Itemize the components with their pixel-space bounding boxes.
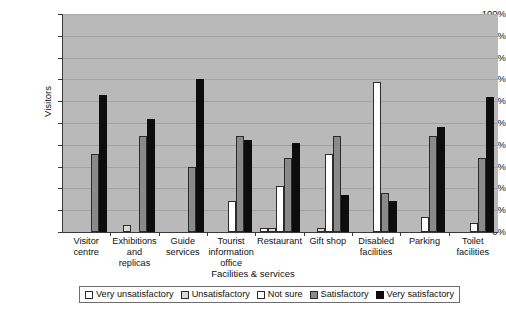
x-axis-tick-label-line: Tourist (207, 236, 255, 247)
bar-group (63, 14, 111, 232)
bar (91, 154, 99, 232)
bar-group (305, 14, 353, 232)
x-axis-tick-label-line: Exhibitions (110, 236, 158, 247)
bar (139, 136, 147, 232)
bar (325, 154, 333, 232)
y-axis-title: Visitors (42, 57, 53, 147)
bar (99, 95, 107, 232)
x-axis-tick-label-line: and (110, 247, 158, 258)
x-axis-tick-label-line: Guide (159, 236, 207, 247)
legend-swatch-icon (376, 291, 384, 299)
legend-label: Very satisfactory (387, 289, 454, 300)
bar (196, 79, 204, 232)
x-axis-tick-label-line: facilities (352, 247, 400, 258)
bar-group-bars (208, 14, 256, 232)
x-axis-tick-label-line: Toilet (449, 236, 497, 247)
legend-swatch-icon (181, 291, 189, 299)
bar (236, 136, 244, 232)
bar (389, 201, 397, 232)
legend-item: Very satisfactory (376, 289, 454, 300)
bar (317, 228, 325, 232)
bar-group-bars (305, 14, 353, 232)
bar-group-bars (353, 14, 401, 232)
bar-group-bars (63, 14, 111, 232)
bar (244, 140, 252, 232)
bar-groups (63, 14, 498, 232)
bar-group (401, 14, 449, 232)
bar (284, 158, 292, 232)
legend-item: Unsatisfactory (181, 289, 250, 300)
bar (268, 228, 276, 232)
bar (421, 217, 429, 232)
bar (147, 119, 155, 232)
x-axis-title: Facilities & services (0, 268, 506, 279)
legend-swatch-icon (85, 291, 93, 299)
legend-label: Unsatisfactory (192, 289, 250, 300)
bar (228, 201, 236, 232)
x-axis-tick-label-line: Gift shop (304, 236, 352, 247)
plot-area (62, 14, 498, 233)
legend-label: Very unsatisfactory (96, 289, 174, 300)
bar (478, 158, 486, 232)
bar-group-bars (256, 14, 304, 232)
bar (260, 228, 268, 232)
bar (188, 167, 196, 232)
bar (292, 143, 300, 232)
bar (381, 193, 389, 232)
bar-group-bars (111, 14, 159, 232)
bar-group-bars (401, 14, 449, 232)
bar (429, 136, 437, 232)
bar (373, 82, 381, 232)
bar-group-bars (160, 14, 208, 232)
x-axis-tick-label-line: centre (62, 247, 110, 258)
bar (276, 186, 284, 232)
chart-legend: Very unsatisfactoryUnsatisfactoryNot sur… (79, 286, 460, 303)
bar-group (353, 14, 401, 232)
bar-group (208, 14, 256, 232)
x-axis-tick-label-line: Visitor (62, 236, 110, 247)
chart-figure: Visitors 100%90%80%70%60%50%40%30%20%10%… (0, 0, 506, 319)
legend-label: Not sure (268, 289, 303, 300)
legend-swatch-icon (310, 291, 318, 299)
legend-item: Satisfactory (310, 289, 369, 300)
bar (123, 225, 131, 232)
x-axis-tick-label-line: Restaurant (255, 236, 303, 247)
legend-swatch-icon (257, 291, 265, 299)
bar-group (111, 14, 159, 232)
bar (437, 127, 445, 232)
bar (470, 223, 478, 232)
legend-label: Satisfactory (321, 289, 369, 300)
legend-item: Not sure (257, 289, 303, 300)
x-axis-tick-label-line: facilities (449, 247, 497, 258)
bar (486, 97, 494, 232)
bar-group (450, 14, 498, 232)
x-axis-tick-label-line: services (159, 247, 207, 258)
bar (333, 136, 341, 232)
bar-group (256, 14, 304, 232)
bar-group (160, 14, 208, 232)
legend-item: Very unsatisfactory (85, 289, 174, 300)
x-axis-tick-label-line: Parking (400, 236, 448, 247)
x-axis-tick-label-line: information (207, 247, 255, 258)
bar-group-bars (450, 14, 498, 232)
bar (341, 195, 349, 232)
x-axis-tick-label-line: Disabled (352, 236, 400, 247)
